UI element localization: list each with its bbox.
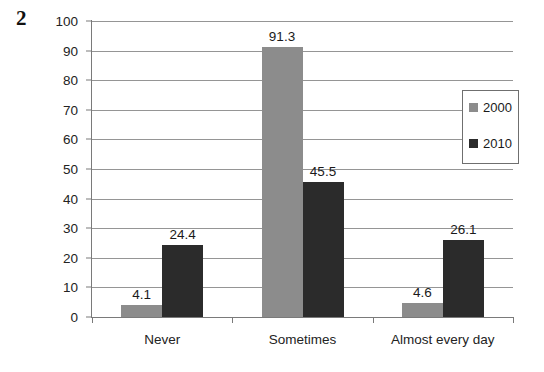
gridline [92, 80, 513, 81]
legend-item-2010: 2010 [469, 137, 512, 150]
x-category-label: Never [144, 332, 180, 347]
y-tick-label: 0 [0, 310, 86, 325]
legend-swatch-2010 [469, 139, 478, 148]
y-tick-label: 100 [0, 14, 86, 29]
x-tick-mark [232, 317, 233, 323]
legend-item-2000: 2000 [469, 101, 512, 114]
x-tick-mark [92, 317, 93, 323]
x-axis-line [92, 317, 514, 318]
legend-label-2000: 2000 [483, 101, 512, 114]
bar [303, 182, 344, 317]
bar [402, 303, 443, 317]
x-tick-mark [513, 317, 514, 323]
y-tick-label: 40 [0, 191, 86, 206]
x-tick-mark [373, 317, 374, 323]
legend-label-2010: 2010 [483, 137, 512, 150]
y-tick-label: 80 [0, 73, 86, 88]
bar [443, 240, 484, 317]
y-tick-label: 30 [0, 221, 86, 236]
bar [162, 245, 203, 317]
chart-legend: 2000 2010 [462, 90, 519, 164]
gridline [92, 110, 513, 111]
legend-swatch-2000 [469, 103, 478, 112]
bar-value-label: 26.1 [450, 222, 476, 237]
bar-value-label: 24.4 [170, 227, 196, 242]
bar-value-label: 4.6 [413, 285, 432, 300]
gridline [92, 51, 513, 52]
y-tick-label: 50 [0, 162, 86, 177]
y-tick-label: 10 [0, 280, 86, 295]
bar-value-label: 4.1 [132, 287, 151, 302]
x-category-label: Almost every day [391, 332, 495, 347]
y-tick-label: 90 [0, 43, 86, 58]
bar-value-label: 91.3 [269, 29, 295, 44]
gridline [92, 139, 513, 140]
y-axis-tick-labels: 0102030405060708090100 [0, 0, 86, 372]
bar [262, 47, 303, 317]
x-category-label: Sometimes [269, 332, 337, 347]
bar-chart: 0102030405060708090100 4.124.491.345.54.… [0, 0, 544, 372]
y-tick-label: 70 [0, 102, 86, 117]
y-tick-label: 20 [0, 250, 86, 265]
gridline [92, 21, 513, 22]
plot-area: 4.124.491.345.54.626.1 [92, 21, 513, 317]
y-tick-label: 60 [0, 132, 86, 147]
bar-value-label: 45.5 [310, 164, 336, 179]
bar [121, 305, 162, 317]
gridline [92, 169, 513, 170]
